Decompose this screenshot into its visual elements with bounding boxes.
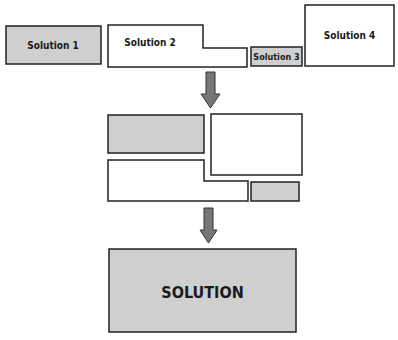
solution-1-box: Solution 1 (6, 26, 101, 64)
diagram-canvas: Solution 1 Solution 2 Solution 3 Solutio… (0, 0, 398, 340)
down-arrow-icon (200, 208, 217, 243)
final-solution-label: SOLUTION (161, 283, 243, 302)
solution-2-label: Solution 2 (124, 37, 176, 48)
solution-3-box: Solution 3 (251, 47, 302, 66)
final-solution-box: SOLUTION (109, 249, 296, 332)
piece-solution-1 (108, 115, 204, 153)
down-arrow-icon (201, 72, 220, 108)
assembled-pieces (108, 114, 302, 201)
solution-2-box: Solution 2 (108, 25, 247, 67)
solution-1-label: Solution 1 (27, 40, 79, 51)
piece-solution-3 (251, 182, 299, 201)
solution-4-box: Solution 4 (305, 5, 394, 66)
piece-solution-4 (211, 114, 302, 175)
solution-4-label: Solution 4 (324, 30, 376, 41)
solution-3-label: Solution 3 (253, 52, 299, 62)
